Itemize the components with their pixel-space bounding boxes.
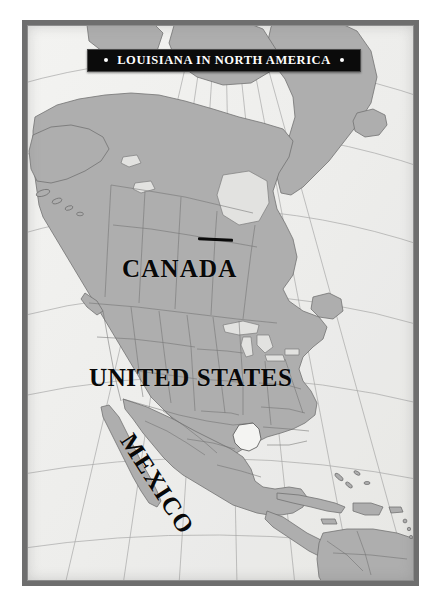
map-title: LOUISIANA IN NORTH AMERICA bbox=[117, 54, 331, 67]
north-america-map bbox=[27, 25, 414, 581]
country-label-united-states: UNITED STATES bbox=[89, 365, 292, 390]
country-label-canada: CANADA bbox=[122, 256, 238, 281]
map-frame: LOUISIANA IN NORTH AMERICA CANADA UNITED… bbox=[22, 20, 419, 586]
banner-bullet-left bbox=[104, 58, 108, 62]
map-figure: LOUISIANA IN NORTH AMERICA CANADA UNITED… bbox=[0, 0, 439, 601]
title-banner: LOUISIANA IN NORTH AMERICA bbox=[87, 49, 361, 72]
banner-bullet-right bbox=[340, 58, 344, 62]
